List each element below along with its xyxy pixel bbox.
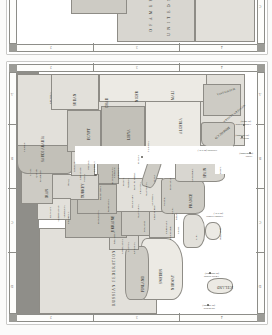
- island-cyprus: [94, 174, 97, 176]
- country-label: SWITZ.: [164, 197, 167, 206]
- grid-letter: A: [256, 87, 264, 101]
- country-label: QATAR: [36, 169, 39, 178]
- landmass-finland: [125, 246, 149, 300]
- country-label: SYRIA: [84, 174, 87, 182]
- grid-number: 3: [94, 63, 180, 71]
- grid-letter: C: [8, 215, 16, 229]
- country-label: BAHRAIN: [40, 169, 43, 182]
- country-label: ERITREA: [50, 92, 53, 104]
- grid-number: 3: [94, 43, 180, 51]
- map-frame-band-bottom: 4 3 2: [9, 64, 265, 72]
- country-label: SAUDI ARABIA: [42, 136, 45, 162]
- country-label: U.A.E.: [30, 168, 33, 176]
- country-label: MONACO: [170, 178, 173, 190]
- country-label: LEBANON: [80, 167, 83, 180]
- country-label: SWEDEN: [160, 269, 163, 284]
- island-note-sub: (to Denmark): [205, 272, 219, 275]
- country-label: GERMANY: [166, 220, 169, 234]
- country-label: LIBYA: [128, 129, 131, 140]
- country-label: SUDAN: [74, 93, 77, 106]
- country-label: JORDAN: [74, 161, 77, 172]
- country-label: ROMANIA: [108, 199, 111, 212]
- grid-letter: C: [256, 215, 264, 229]
- country-label: SPAIN: [204, 168, 207, 178]
- country-label: IRELAND: [220, 228, 223, 240]
- grid-number: 2: [8, 313, 94, 321]
- country-label: BOS. & HERZ.: [134, 172, 137, 190]
- island-malta: [141, 156, 143, 158]
- island-note-name: Faeroe Islands: [204, 275, 219, 278]
- country-label: ESTONIA: [134, 242, 137, 254]
- grid-number: 4: [180, 43, 264, 51]
- country-label: SERBIA: [128, 178, 131, 188]
- grid-number: 4: [180, 63, 264, 71]
- landmass-france: [161, 178, 205, 214]
- country-label: LUX.: [172, 208, 175, 214]
- country-label: ARMENIA: [64, 205, 67, 218]
- island-note-sub: (to U.K.): [198, 149, 207, 152]
- country-label: NORWAY: [172, 275, 175, 290]
- landmass-mali-niger-chad: [99, 74, 207, 102]
- country-label: ICELAND: [217, 285, 233, 288]
- island-note-sub: (to Spain): [241, 120, 251, 123]
- country-label: IRAQ: [68, 179, 71, 186]
- country-label: ANDORRA: [192, 168, 195, 182]
- grid-letter: B: [256, 151, 264, 165]
- grid-number: 3: [94, 313, 180, 321]
- country-label: GEORGIA: [68, 212, 71, 224]
- country-label: O F A M E R I C A: [149, 0, 153, 32]
- country-label: BELARUS: [114, 231, 117, 244]
- map-frame-band-top: 4 3 2: [9, 314, 265, 322]
- grid-letter: B: [8, 151, 16, 165]
- country-label: CROATIA: [140, 182, 143, 194]
- grid-number: 2: [8, 43, 94, 51]
- grid-letter: A: [8, 87, 16, 101]
- country-label: CYPRUS: [94, 161, 97, 172]
- island-note: Faeroe Islands (to Denmark): [204, 272, 219, 278]
- grid-letter: D: [256, 279, 264, 293]
- atlas-page: 4 3 2 C U N I T E D S T A T E S O F A M …: [0, 0, 272, 335]
- map-frame-band-top: 4 3 2: [9, 44, 265, 52]
- country-label: MALTA: [138, 155, 141, 164]
- country-label: AZERBAIJAN: [58, 205, 61, 222]
- island-note-name: Jan Mayen: [204, 307, 215, 310]
- country-label: GREECE: [114, 167, 117, 178]
- country-label: FRANCE: [190, 193, 193, 208]
- grid-letter: D: [8, 279, 16, 293]
- country-label: RUSSIAN FEDERATION: [113, 250, 117, 306]
- north-america-map-fragment: 4 3 2 C U N I T E D S T A T E S O F A M …: [7, 0, 267, 54]
- country-label: ALBANIA: [118, 168, 121, 180]
- grid-letter: C: [256, 0, 264, 13]
- island-note-name: Canary Islands: [236, 123, 252, 126]
- grid-number: 4: [180, 313, 264, 321]
- country-label: KUWAIT: [50, 207, 53, 218]
- country-label: U.K.: [196, 235, 199, 240]
- country-label: SLOVAKIA: [138, 204, 141, 218]
- country-label: TUNISIA: [148, 141, 151, 152]
- country-label: U N I T E D S T A T E S: [167, 0, 171, 36]
- country-label: AUSTRIA: [152, 194, 155, 206]
- country-label: SLOVENIA: [146, 182, 149, 196]
- country-label: BELG.: [176, 212, 179, 220]
- map-frame-band-right: D C B A: [9, 72, 17, 314]
- country-label: UKRAINE: [112, 215, 115, 232]
- grid-number: 2: [8, 63, 94, 71]
- island-note-name: Gibraltar: [208, 149, 217, 152]
- country-label: TURKEY: [82, 183, 85, 198]
- country-label: LATVIA: [128, 242, 131, 252]
- island-note: Jan Mayen (to Norway): [202, 304, 215, 310]
- country-label: MALI: [172, 91, 175, 100]
- country-label: DENMARK: [170, 226, 173, 240]
- landmass-algeria: [145, 100, 201, 148]
- country-label: BULGARIA: [100, 186, 103, 200]
- island-note: Channel Islands (to U.K.): [206, 212, 223, 218]
- country-label: FINLAND: [142, 276, 145, 292]
- country-label: HUNGARY: [132, 194, 135, 208]
- country-label: LITHUANIA: [122, 239, 125, 254]
- country-label: IRAN: [46, 189, 49, 198]
- country-label: ISRAEL: [88, 160, 91, 170]
- country-label: YEMEN: [24, 142, 27, 152]
- country-label: NETH.: [178, 226, 181, 234]
- country-label: ITALY: [154, 174, 157, 182]
- country-label: EGYPT: [88, 128, 91, 140]
